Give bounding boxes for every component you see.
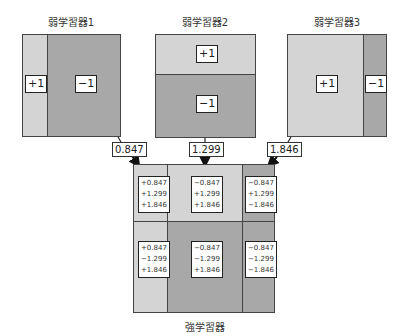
weight-3: 1.846 [267,142,302,157]
sum-line: +1.299 [194,189,220,200]
sum-line: −0.847 [248,243,274,254]
sum-line: +1.299 [141,189,167,200]
sum-line: −1.299 [194,254,220,265]
sum-line: +1.846 [141,200,167,211]
arrow-1 [132,156,137,163]
sum-line: +1.846 [141,265,167,276]
sum-line: +1.846 [194,200,220,211]
sum-line: −0.847 [194,243,220,254]
weight-2: 1.299 [189,142,224,157]
sum-line: +1.846 [194,265,220,276]
strong-cell-2-sum: −0.847 +1.299 +1.846 [191,176,223,213]
strong-learner-box: +0.847 +1.299 +1.846 −0.847 +1.299 +1.84… [133,164,275,313]
sum-line: −0.847 [194,178,220,189]
strong-cell-1-sum: +0.847 +1.299 +1.846 [138,176,170,213]
strong-cell-5-sum: −0.847 −1.299 +1.846 [191,241,223,278]
sum-line: +1.299 [248,189,274,200]
sum-line: −1.846 [248,200,274,211]
sum-line: −1.846 [248,265,274,276]
weight-1: 0.847 [112,142,147,157]
arrow-3 [271,157,277,163]
sum-line: +0.847 [141,243,167,254]
strong-cell-6-sum: −0.847 −1.299 −1.846 [245,241,277,278]
sum-line: −0.847 [248,178,274,189]
strong-cell-4-sum: +0.847 −1.299 +1.846 [138,241,170,278]
sum-line: −1.299 [248,254,274,265]
strong-cell-3-sum: −0.847 +1.299 −1.846 [245,176,277,213]
strong-learner-title: 強学習器 [155,319,255,334]
sum-line: −1.299 [141,254,167,265]
sum-line: +0.847 [141,178,167,189]
